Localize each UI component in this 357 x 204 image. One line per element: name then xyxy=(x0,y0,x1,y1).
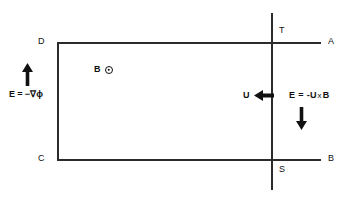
motional-field-formula: E=-UxB xyxy=(289,91,329,100)
magnetic-field-label: B xyxy=(94,65,101,74)
label-b: B xyxy=(328,154,334,163)
label-s: S xyxy=(279,165,285,174)
top-horizontal-line xyxy=(57,42,321,44)
formula-u: U xyxy=(310,90,317,100)
bottom-horizontal-line xyxy=(57,159,321,161)
formula-equals: = xyxy=(15,89,24,99)
arrow-up-icon xyxy=(21,63,34,86)
formula-equals-2: = xyxy=(295,90,306,100)
label-d: D xyxy=(38,37,45,46)
label-c: C xyxy=(38,154,45,163)
label-a: A xyxy=(328,37,334,46)
velocity-label: U xyxy=(243,91,250,100)
magnetic-field-group: B xyxy=(94,65,113,74)
formula-grad-phi: −∇ϕ xyxy=(25,89,44,99)
formula-b: B xyxy=(323,90,330,100)
circle-dot-out-of-page-icon xyxy=(105,66,113,74)
physics-diagram: D A C B T S E=−∇ϕ B U E=-UxB xyxy=(0,0,357,204)
label-t: T xyxy=(279,26,285,35)
arrow-down-icon xyxy=(295,107,308,130)
arrow-left-icon xyxy=(254,89,274,102)
left-vertical-line xyxy=(57,42,59,161)
electrostatic-field-formula: E=−∇ϕ xyxy=(9,90,43,99)
